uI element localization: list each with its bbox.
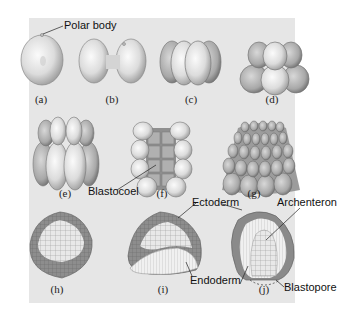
caption-i: (i) bbox=[158, 284, 168, 295]
caption-h: (h) bbox=[51, 284, 64, 295]
stage-a-zygote bbox=[21, 26, 63, 85]
stage-g-morula bbox=[222, 121, 300, 197]
caption-c: (c) bbox=[185, 94, 197, 105]
label-endoderm: Endoderm bbox=[190, 275, 241, 286]
caption-d: (d) bbox=[266, 94, 279, 105]
stage-c-four-cell bbox=[160, 41, 221, 85]
caption-f: (f) bbox=[157, 188, 168, 199]
caption-g: (g) bbox=[248, 188, 261, 199]
stage-h-blastula bbox=[30, 212, 92, 278]
label-archenteron: Archenteron bbox=[277, 197, 337, 208]
label-blastocoel: Blastocoel bbox=[88, 186, 139, 197]
label-blastopore: Blastopore bbox=[284, 282, 337, 293]
stage-b-two-cell bbox=[79, 39, 146, 83]
caption-a: (a) bbox=[35, 94, 47, 105]
embryo-development-illustration bbox=[0, 0, 350, 318]
caption-b: (b) bbox=[106, 94, 119, 105]
caption-e: (e) bbox=[59, 188, 71, 199]
stage-d-eight-cell bbox=[240, 42, 309, 95]
caption-j: (j) bbox=[259, 284, 269, 295]
stage-e-sixteen-cell bbox=[33, 117, 99, 190]
label-ectoderm: Ectoderm bbox=[192, 197, 239, 208]
label-polar-body: Polar body bbox=[64, 20, 117, 31]
stage-i-early-gastrula bbox=[128, 203, 201, 276]
